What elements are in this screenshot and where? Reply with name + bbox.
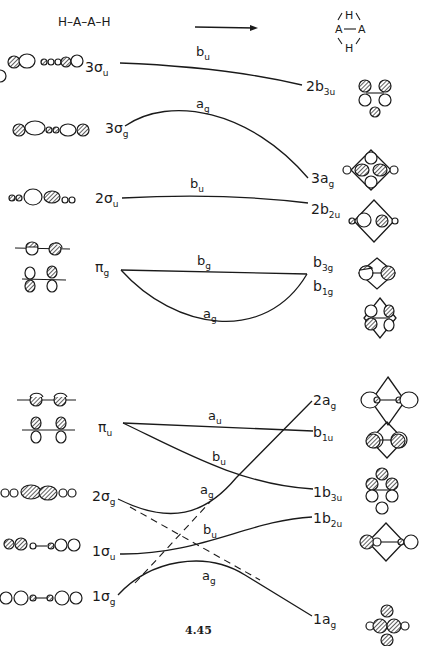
- level-label-1sg-subscript: g: [110, 597, 116, 607]
- symmetry-label-1sg-1ag-main: a: [202, 568, 210, 583]
- level-label-b1g: b1g: [313, 278, 333, 297]
- level-label-piu: πu: [98, 419, 112, 438]
- orbital-3sg-icon: [13, 121, 89, 136]
- level-label-1b2u: 1b2u: [313, 510, 342, 529]
- correlation-line-2su-2b2u: [122, 196, 308, 203]
- linear-orbital-sketches: [0, 54, 89, 605]
- walsh-correlation-diagram: H–A–A–H H A A H buagbubgagaubuagbuag 3σu…: [0, 0, 427, 646]
- symmetry-label-3sg-3ag-subscript: g: [204, 104, 210, 114]
- level-label-3su: 3σu: [85, 59, 109, 78]
- level-label-1ag-subscript: g: [331, 620, 337, 630]
- symmetry-label-1sg-1ag: ag: [202, 568, 216, 586]
- symmetry-label-piu-1b3u: bu: [212, 449, 226, 467]
- transformation-arrow-icon: [195, 25, 258, 31]
- cyclic-orbital-sketches: [0, 70, 418, 646]
- level-label-b3g-main: b: [313, 254, 322, 270]
- level-label-1su-main: 1σ: [92, 543, 110, 559]
- symmetry-label-2sg-2ag-main: a: [200, 482, 208, 497]
- level-label-1su-subscript: u: [110, 552, 116, 562]
- cyclic-a-left: A: [335, 23, 343, 36]
- orbital-3ag-icon: [343, 150, 398, 190]
- dashed-line-1: [135, 502, 210, 583]
- cyclic-a-right: A: [358, 23, 366, 36]
- header: H–A–A–H H A A H: [58, 9, 366, 55]
- symmetry-label-3su-2b3u-main: b: [196, 44, 204, 59]
- orbital-1su-icon: [4, 538, 80, 551]
- level-label-1b2u-subscript: 2u: [331, 519, 342, 529]
- level-label-b1u-main: b: [313, 424, 322, 440]
- symmetry-label-pig-b3g: bg: [197, 253, 211, 271]
- symmetry-label-3su-2b3u: bu: [196, 44, 210, 62]
- symmetry-label-3sg-3ag-main: a: [196, 96, 204, 111]
- cyclic-molecule: H A A H: [335, 9, 366, 55]
- symmetry-label-piu-b1u-main: a: [208, 408, 216, 423]
- orbital-b1g-icon: [364, 298, 396, 338]
- orbital-2b2u-icon: [349, 200, 398, 242]
- correlation-line-pig-b3g: [121, 270, 307, 274]
- level-label-2sg-main: 2σ: [92, 488, 110, 504]
- symmetry-label-piu-1b3u-main: b: [212, 449, 220, 464]
- symmetry-label-2su-2b2u-main: b: [190, 176, 198, 191]
- orbital-b3g-icon: [359, 258, 395, 289]
- level-label-2sg: 2σg: [92, 488, 116, 507]
- level-label-b3g-subscript: 3g: [322, 263, 333, 273]
- orbital-2su-icon: [9, 189, 75, 205]
- level-label-2b2u-subscript: 2u: [329, 210, 340, 220]
- level-label-3su-main: 3σ: [85, 59, 103, 75]
- level-label-b1g-main: b: [313, 278, 322, 294]
- level-label-2ag: 2ag: [313, 392, 336, 411]
- level-label-2b3u-main: 2b: [306, 78, 324, 94]
- level-label-2b2u: 2b2u: [311, 201, 340, 220]
- level-label-1b2u-main: 1b: [313, 510, 331, 526]
- level-label-1b3u-main: 1b: [313, 484, 331, 500]
- cyclic-level-labels: 2b3u3ag2b2ub3gb1g2agb1u1b3u1b2u1ag: [306, 78, 342, 630]
- level-label-3ag-main: 3a: [311, 170, 329, 186]
- symmetry-label-pig-b1g-main: a: [203, 306, 211, 321]
- level-label-2b3u: 2b3u: [306, 78, 335, 97]
- symmetry-label-1sg-1ag-subscript: g: [210, 576, 216, 586]
- level-label-2ag-subscript: g: [331, 401, 337, 411]
- symmetry-label-pig-b3g-main: b: [197, 253, 205, 268]
- level-label-2ag-main: 2a: [313, 392, 331, 408]
- level-label-1su: 1σu: [92, 543, 116, 562]
- level-label-2su-main: 2σ: [95, 190, 113, 206]
- level-label-1ag: 1ag: [313, 611, 336, 630]
- level-label-1ag-main: 1a: [313, 611, 331, 627]
- level-label-b1g-subscript: 1g: [322, 287, 333, 297]
- orbital-3su-icon: [8, 54, 83, 68]
- linear-level-labels: 3σu3σg2σuπgπu2σg1σu1σg: [85, 59, 129, 607]
- symmetry-label-2sg-2ag: ag: [200, 482, 214, 500]
- cyclic-h-top: H: [345, 9, 353, 22]
- orbital-1b2u-icon: [360, 523, 418, 561]
- symmetry-label-piu-1b3u-subscript: u: [220, 457, 226, 467]
- level-label-3sg: 3σg: [105, 120, 129, 139]
- level-label-2sg-subscript: g: [110, 497, 116, 507]
- level-label-pig: πg: [95, 259, 109, 278]
- symmetry-label-pig-b1g: ag: [203, 306, 217, 324]
- symmetry-label-1su-1b2u: bu: [203, 522, 217, 540]
- symmetry-label-3sg-3ag: ag: [196, 96, 210, 114]
- level-label-2su: 2σu: [95, 190, 119, 209]
- symmetry-label-piu-b1u: au: [208, 408, 222, 426]
- level-label-2su-subscript: u: [113, 199, 119, 209]
- level-label-1sg-main: 1σ: [92, 588, 110, 604]
- level-label-3sg-main: 3σ: [105, 120, 123, 136]
- orbital-pig-icon: [15, 242, 70, 292]
- correlation-line-3sg-3ag: [125, 111, 308, 178]
- level-label-3su-subscript: u: [103, 68, 109, 78]
- symmetry-label-1su-1b2u-main: b: [203, 522, 211, 537]
- linear-molecule-label: H–A–A–H: [58, 15, 110, 29]
- level-label-2b3u-subscript: 3u: [324, 87, 335, 97]
- symmetry-label-pig-b1g-subscript: g: [211, 314, 217, 324]
- level-label-3sg-subscript: g: [123, 129, 129, 139]
- level-label-3ag: 3ag: [311, 170, 334, 189]
- level-label-3ag-subscript: g: [329, 179, 335, 189]
- level-label-b1u: b1u: [313, 424, 333, 443]
- orbital-2sg-icon: [1, 485, 76, 500]
- orbital-piu-icon: [17, 393, 76, 443]
- level-label-piu-subscript: u: [106, 428, 112, 438]
- level-label-1sg: 1σg: [92, 588, 116, 607]
- level-label-b1u-subscript: 1u: [322, 433, 333, 443]
- figure-number: 4.45: [185, 624, 212, 637]
- cyclic-h-bottom: H: [345, 42, 353, 55]
